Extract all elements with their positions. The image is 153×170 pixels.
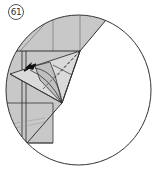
origami-diagram [0, 0, 153, 170]
paper-layers [0, 0, 106, 160]
